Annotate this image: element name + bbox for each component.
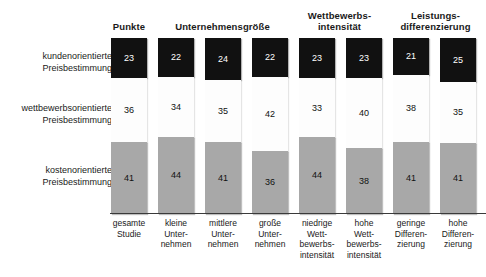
- bar-segment-value: 22: [158, 52, 194, 62]
- group-header-wettbewerbsintensitaet: Wettbewerbs- intensität: [292, 11, 387, 32]
- bar-column: 253541: [440, 38, 476, 214]
- x-tick-label: mittlereUnter-nehmen: [200, 218, 246, 250]
- stacked-bar-chart: Punkte Unternehmensgröße Wettbewerbs- in…: [0, 0, 486, 277]
- bar-column: 224236: [252, 38, 288, 214]
- series-label-line1: wettbewerbsorientierte: [0, 103, 112, 115]
- bar-segment-value: 25: [440, 55, 476, 65]
- bar-segment-value: 35: [205, 106, 241, 116]
- x-tick-label-line: bewerbs-: [341, 239, 387, 250]
- x-tick-label-line: Differen-: [388, 229, 434, 240]
- x-tick-label-line: kleine: [153, 218, 199, 229]
- series-label-line2: Preisbestimmung: [0, 63, 112, 75]
- x-tick-label-line: mittlere: [200, 218, 246, 229]
- bar-segment-value: 44: [299, 170, 335, 180]
- series-label-kundenorientierte: kundenorientierte Preisbestimmung: [0, 51, 112, 74]
- x-tick-label-line: zierung: [435, 239, 481, 250]
- bar-segment-value: 34: [158, 102, 194, 112]
- bar-segment-value: 23: [111, 53, 147, 63]
- x-tick-label: geringeDifferen-zierung: [388, 218, 434, 250]
- group-header-label-line2: intensität: [292, 22, 387, 33]
- bar-segment-value: 41: [205, 173, 241, 183]
- series-label-kostenorientierte: kostenorientierte Preisbestimmung: [0, 165, 112, 188]
- x-tick-label-line: große: [247, 218, 293, 229]
- x-tick-label: kleineUnter-nehmen: [153, 218, 199, 250]
- x-tick-label-line: Differen-: [435, 229, 481, 240]
- group-header-label-line1: Leistungs-: [385, 11, 486, 22]
- x-tick-label-line: niedrige: [294, 218, 340, 229]
- x-tick-label: gesamteStudie: [106, 218, 152, 239]
- bar-segment-value: 36: [252, 177, 288, 187]
- x-tick-label: großeUnter-nehmen: [247, 218, 293, 250]
- x-tick-label-line: bewerbs-: [294, 239, 340, 250]
- bar-column: 223444: [158, 38, 194, 214]
- group-header-label-line2: differenzierung: [385, 22, 486, 33]
- x-tick-label-line: hohe: [341, 218, 387, 229]
- x-tick-label-line: Unter-: [153, 229, 199, 240]
- axis-baseline: [110, 213, 486, 214]
- x-tick-label: niedrigeWett-bewerbs-intensität: [294, 218, 340, 260]
- bar-segment-value: 36: [111, 105, 147, 115]
- series-label-line2: Preisbestimmung: [0, 115, 112, 127]
- series-label-line2: Preisbestimmung: [0, 177, 112, 189]
- bar-segment-value: 44: [158, 170, 194, 180]
- bar-segment-value: 38: [346, 176, 382, 186]
- group-header-leistungsdifferenzierung: Leistungs- differenzierung: [385, 11, 486, 32]
- bar-column: 234038: [346, 38, 382, 214]
- bar-column: 243541: [205, 38, 241, 214]
- x-tick-label-line: Unter-: [247, 229, 293, 240]
- bar-segment-value: 40: [346, 108, 382, 118]
- x-tick-label-line: zierung: [388, 239, 434, 250]
- x-tick-label-line: intensität: [341, 250, 387, 261]
- bar-segment-value: 21: [393, 51, 429, 61]
- group-header-unternehmensgroesse: Unternehmensgröße: [152, 22, 293, 33]
- group-header-punkte: Punkte: [106, 22, 152, 33]
- x-tick-label-line: Wett-: [294, 229, 340, 240]
- bar-segment-value: 35: [440, 107, 476, 117]
- series-label-line1: kostenorientierte: [0, 165, 112, 177]
- plot-area: 2336412234442435412242362333442340382138…: [110, 38, 486, 214]
- x-tick-label-line: nehmen: [247, 239, 293, 250]
- x-tick-label-line: Unter-: [200, 229, 246, 240]
- x-tick-label-line: Studie: [106, 229, 152, 240]
- x-tick-label-line: nehmen: [200, 239, 246, 250]
- bar-segment-value: 24: [205, 54, 241, 64]
- bar-segment-value: 41: [393, 173, 429, 183]
- bar-column: 213841: [393, 38, 429, 214]
- group-header-label: Unternehmensgröße: [175, 21, 270, 32]
- x-tick-label-line: geringe: [388, 218, 434, 229]
- x-tick-label: hoheWett-bewerbs-intensität: [341, 218, 387, 260]
- bar-segment-value: 42: [252, 109, 288, 119]
- bar-segment-value: 38: [393, 103, 429, 113]
- group-header-label-line1: Wettbewerbs-: [292, 11, 387, 22]
- bar-segment-value: 23: [346, 53, 382, 63]
- bar-column: 233344: [299, 38, 335, 214]
- x-tick-label-line: nehmen: [153, 239, 199, 250]
- bar-segment-value: 33: [299, 103, 335, 113]
- bar-segment-value: 22: [252, 52, 288, 62]
- group-header-label: Punkte: [113, 21, 145, 32]
- bar-column: 233641: [111, 38, 147, 214]
- bar-segment-value: 41: [440, 173, 476, 183]
- x-tick-label: hoheDifferen-zierung: [435, 218, 481, 250]
- series-label-wettbewerbsorientierte: wettbewerbsorientierte Preisbestimmung: [0, 103, 112, 126]
- bar-segment-value: 23: [299, 53, 335, 63]
- x-tick-label-line: intensität: [294, 250, 340, 261]
- series-label-line1: kundenorientierte: [0, 51, 112, 63]
- x-tick-label-line: hohe: [435, 218, 481, 229]
- x-tick-label-line: gesamte: [106, 218, 152, 229]
- bar-segment-value: 41: [111, 173, 147, 183]
- x-tick-label-line: Wett-: [341, 229, 387, 240]
